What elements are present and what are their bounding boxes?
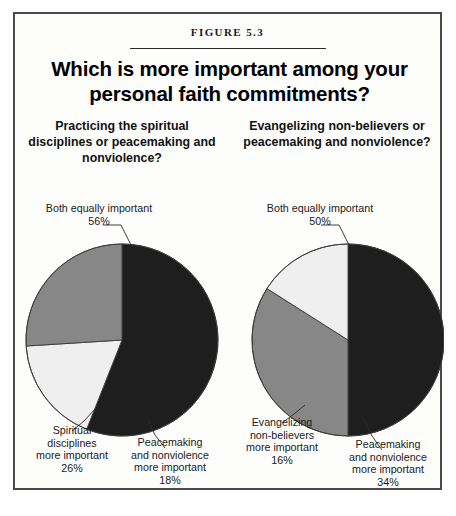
callout-spiritual-disciplines: Spiritual disciplines more important 26% xyxy=(20,424,124,474)
figure-container: FIGURE 5.3 Which is more important among… xyxy=(13,12,442,490)
figure-title: Which is more important among your perso… xyxy=(29,56,430,106)
pie-slice xyxy=(348,244,444,436)
callout-evangelizing-non-believers: Evangelizing non-believers more importan… xyxy=(230,416,334,466)
callout-both-equally-left: Both equally important 56% xyxy=(29,202,169,227)
callout-both-equally-right: Both equally important 50% xyxy=(250,202,390,227)
figure-number: FIGURE 5.3 xyxy=(15,26,440,38)
chart-panel-right: Evangelizing non-believers or peacemakin… xyxy=(230,118,444,490)
pie-slice xyxy=(26,244,122,346)
callout-peacemaking-left: Peacemaking and nonviolence more importa… xyxy=(115,436,225,486)
chart-panel-left: Practicing the spiritual disciplines or … xyxy=(15,118,229,490)
callout-peacemaking-right: Peacemaking and nonviolence more importa… xyxy=(332,438,444,488)
figure-rule xyxy=(130,48,326,49)
